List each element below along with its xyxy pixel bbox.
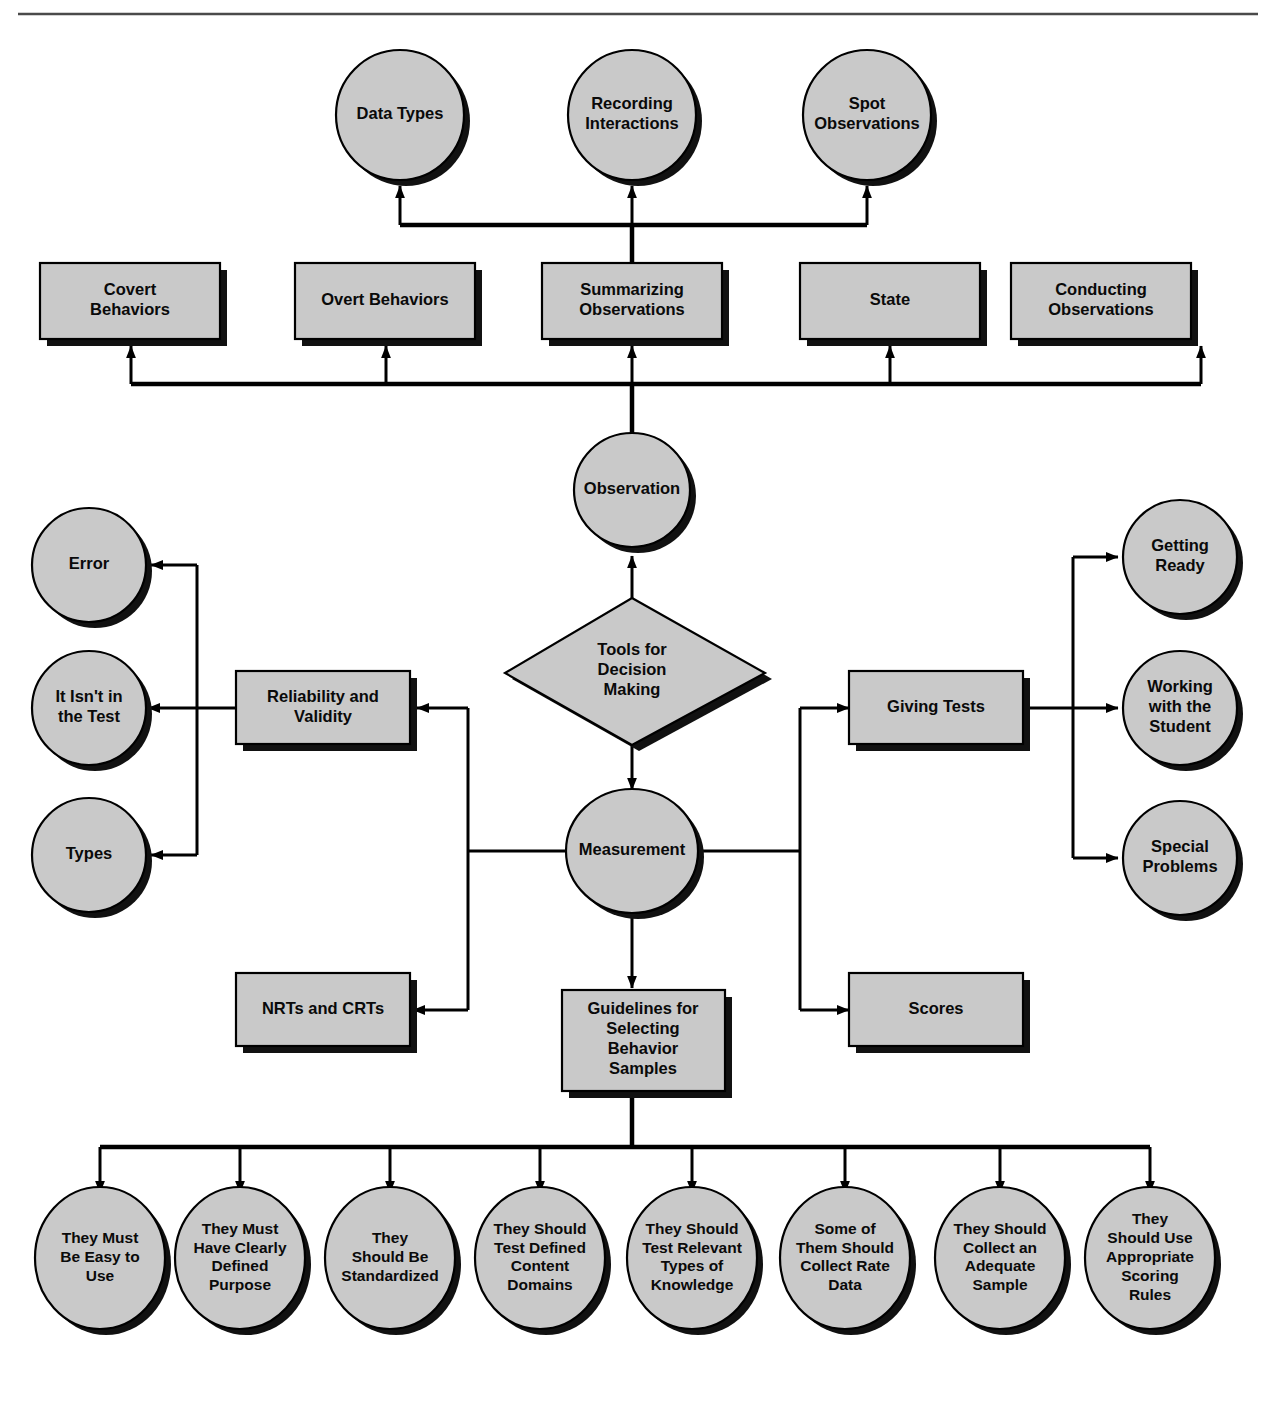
node-getting-ready[interactable]: GettingReady bbox=[1123, 500, 1243, 620]
node-special-problems[interactable]: SpecialProblems bbox=[1123, 801, 1243, 921]
node-giving-tests[interactable]: Giving Tests bbox=[849, 671, 1030, 751]
node-label: Types bbox=[66, 844, 112, 862]
node-guidelines-for-selecting-behavior-samples[interactable]: Guidelines forSelectingBehaviorSamples bbox=[562, 990, 732, 1098]
node-label: Giving Tests bbox=[887, 697, 985, 715]
node-it-isnt-in-the-test[interactable]: It Isn't inthe Test bbox=[32, 651, 152, 771]
node-label: Scores bbox=[908, 999, 963, 1017]
node-measurement[interactable]: Measurement bbox=[566, 789, 704, 919]
node-observation[interactable]: Observation bbox=[574, 433, 696, 553]
node-label: State bbox=[870, 290, 910, 308]
concept-map-svg: Data Types RecordingInteractions SpotObs… bbox=[0, 0, 1275, 1414]
node-nrts-and-crts[interactable]: NRTs and CRTs bbox=[236, 973, 417, 1053]
node-some-of-them-should-collect-rate-data[interactable]: Some ofThem ShouldCollect RateData bbox=[780, 1187, 916, 1335]
node-label: Data Types bbox=[357, 104, 444, 122]
node-covert-behaviors[interactable]: CovertBehaviors bbox=[40, 263, 227, 346]
node-label: Error bbox=[69, 554, 110, 572]
node-they-should-test-defined-content-domains[interactable]: They ShouldTest DefinedContentDomains bbox=[475, 1187, 611, 1335]
node-types[interactable]: Types bbox=[32, 798, 152, 918]
node-tools-for-decision-making[interactable]: Tools forDecisionMaking bbox=[505, 598, 772, 751]
node-scores[interactable]: Scores bbox=[849, 973, 1030, 1053]
node-they-should-collect-an-adequate-sample[interactable]: They ShouldCollect anAdequateSample bbox=[935, 1187, 1071, 1335]
node-working-with-the-student[interactable]: Workingwith theStudent bbox=[1123, 651, 1243, 771]
node-overt-behaviors[interactable]: Overt Behaviors bbox=[295, 263, 482, 346]
node-label: Measurement bbox=[579, 840, 686, 858]
node-label: Overt Behaviors bbox=[321, 290, 448, 308]
node-they-must-have-clearly-defined-purpose[interactable]: They MustHave ClearlyDefinedPurpose bbox=[175, 1187, 311, 1335]
node-spot-observations[interactable]: SpotObservations bbox=[803, 50, 937, 186]
node-reliability-and-validity[interactable]: Reliability andValidity bbox=[236, 671, 417, 751]
node-label: Tools forDecisionMaking bbox=[597, 640, 667, 698]
node-they-should-be-standardized[interactable]: TheyShould BeStandardized bbox=[325, 1187, 461, 1335]
node-state[interactable]: State bbox=[800, 263, 987, 346]
node-label: Workingwith theStudent bbox=[1147, 677, 1213, 735]
node-conducting-observations[interactable]: ConductingObservations bbox=[1011, 263, 1198, 346]
node-label: Observation bbox=[584, 479, 680, 497]
node-data-types[interactable]: Data Types bbox=[336, 50, 470, 186]
node-error[interactable]: Error bbox=[32, 508, 152, 628]
node-label: NRTs and CRTs bbox=[262, 999, 384, 1017]
diagram-page: Data Types RecordingInteractions SpotObs… bbox=[0, 0, 1275, 1414]
node-recording-interactions[interactable]: RecordingInteractions bbox=[568, 50, 702, 186]
node-they-should-test-relevant-types-of-knowledge[interactable]: They ShouldTest RelevantTypes ofKnowledg… bbox=[627, 1187, 763, 1335]
node-they-must-be-easy-to-use[interactable]: They MustBe Easy toUse bbox=[35, 1187, 171, 1335]
node-summarizing-observations[interactable]: SummarizingObservations bbox=[542, 263, 729, 346]
node-they-should-use-appropriate-scoring-rules[interactable]: TheyShould UseAppropriateScoringRules bbox=[1085, 1187, 1221, 1335]
